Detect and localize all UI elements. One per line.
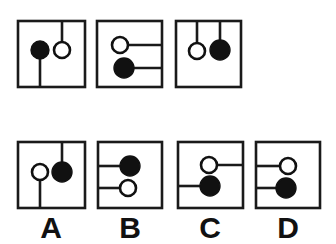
question-panel-q1 (18, 21, 85, 87)
filled-circle-node (114, 58, 134, 78)
answer-option-a[interactable] (18, 142, 85, 208)
filled-circle-node (210, 40, 230, 60)
puzzle-canvas: ABCD (0, 0, 336, 244)
question-panel-q2 (97, 21, 162, 87)
open-circle-node (112, 37, 128, 53)
question-panel-q3 (176, 21, 241, 87)
filled-circle-node (120, 156, 140, 176)
filled-circle-node (276, 178, 296, 198)
answer-option-b[interactable] (98, 142, 162, 208)
puzzle-figure: ABCD (0, 0, 336, 244)
answer-options-row (18, 142, 320, 208)
open-circle-node (120, 180, 136, 196)
question-row (18, 21, 241, 87)
open-circle-node (32, 164, 48, 180)
answer-option-label-a: A (40, 211, 62, 244)
panel-frame (178, 142, 243, 208)
answer-option-label-b: B (119, 211, 141, 244)
panel-frame (176, 21, 241, 87)
filled-circle-node (52, 162, 72, 182)
answer-option-label-c: C (199, 211, 221, 244)
filled-circle-node (200, 176, 220, 196)
open-circle-node (189, 43, 205, 59)
answer-option-label-d: D (277, 211, 299, 244)
answer-option-c[interactable] (178, 142, 243, 208)
answer-letter-labels: ABCD (40, 211, 299, 244)
open-circle-node (201, 157, 217, 173)
panel-frame (18, 21, 85, 87)
open-circle-node (280, 158, 296, 174)
filled-circle-node (31, 41, 49, 59)
answer-option-d[interactable] (256, 142, 320, 208)
panel-frame (18, 142, 85, 208)
open-circle-node (54, 42, 70, 58)
